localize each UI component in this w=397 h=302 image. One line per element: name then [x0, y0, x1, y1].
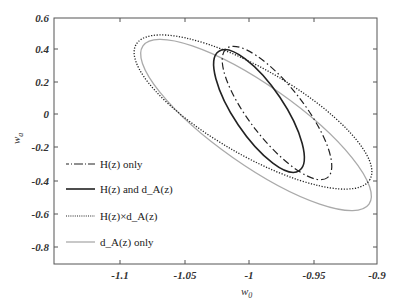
legend-item: H(z)×d_A(z)	[66, 210, 158, 223]
y-tick-labels: 0.6 0.4 0.2 0 -0.2 -0.4 -0.6 -0.8	[32, 12, 50, 253]
legend: H(z) only H(z) and d_A(z) H(z)×d_A(z) d_…	[66, 158, 173, 249]
series-H-and-dA	[198, 37, 320, 184]
y-tick-label: -0.6	[32, 208, 50, 220]
x-tick-label: -1	[244, 269, 253, 281]
x-tick-label: -0.95	[303, 269, 326, 281]
x-tick-labels: -1.1 -1.05 -1 -0.95 -0.9	[111, 269, 386, 281]
y-tick-label: 0.2	[35, 76, 49, 88]
x-tick-label: -1.1	[111, 269, 128, 281]
legend-item: H(z) and d_A(z)	[66, 183, 173, 196]
x-axis-label: w0	[241, 285, 252, 300]
x-tick-label: -0.9	[368, 269, 386, 281]
legend-item: d_A(z) only	[66, 236, 154, 249]
svg-text:H(z) and d_A(z): H(z) and d_A(z)	[100, 183, 173, 196]
svg-text:H(z)×d_A(z): H(z)×d_A(z)	[100, 210, 158, 223]
series-H-only	[205, 32, 349, 194]
svg-text:H(z) only: H(z) only	[100, 158, 143, 171]
y-tick-label: 0.4	[35, 43, 49, 55]
series-dA-only	[120, 13, 392, 237]
y-tick-label: -0.4	[32, 175, 50, 187]
chart: -1.1 -1.05 -1 -0.95 -0.9 0.6 0.4 0.2 0 -…	[0, 0, 397, 302]
y-tick-label: 0.6	[35, 12, 49, 24]
y-axis-label: wa	[10, 133, 25, 144]
y-tick-label: 0	[44, 108, 50, 120]
y-tick-label: -0.2	[32, 141, 50, 153]
svg-text:d_A(z) only: d_A(z) only	[100, 236, 154, 249]
y-tick-label: -0.8	[32, 241, 50, 253]
legend-item: H(z) only	[66, 158, 143, 171]
x-tick-label: -1.05	[174, 269, 197, 281]
